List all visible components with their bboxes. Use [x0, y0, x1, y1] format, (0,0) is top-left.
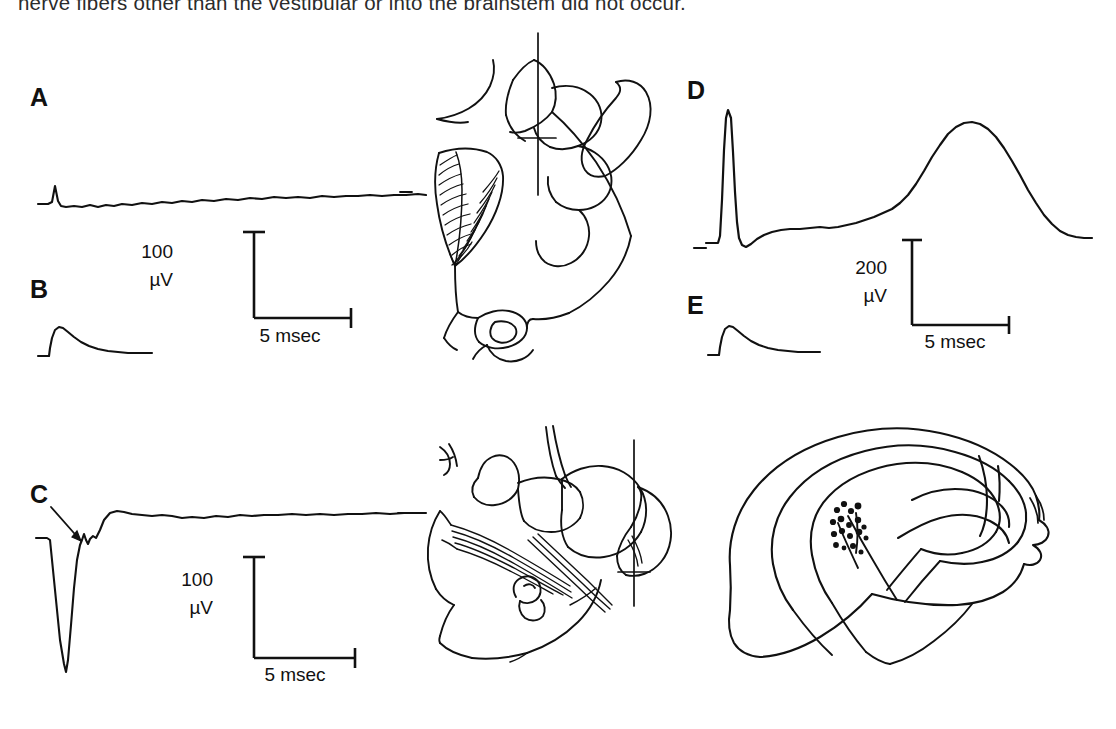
scale-bar-a — [243, 232, 352, 328]
scale-a-time-value: 5 msec — [230, 326, 350, 346]
brainstem-section-upper-diagram — [400, 33, 651, 361]
scale-d-amplitude-value: 200 — [832, 258, 887, 278]
panel-e-trace — [708, 326, 820, 355]
scale-bar-c — [243, 557, 356, 668]
panel-letter-d: D — [687, 78, 705, 103]
scale-a-amplitude-value: 100 — [123, 242, 173, 262]
panel-letter-c: C — [30, 482, 48, 507]
scale-c-amplitude-unit: µV — [163, 598, 213, 618]
caption-text-fragment: nerve fibers other than the vestibular o… — [18, 0, 1098, 15]
scale-c-amplitude-value: 100 — [163, 570, 213, 590]
panel-letter-e: E — [687, 293, 704, 318]
panel-c-trace — [36, 507, 426, 672]
scale-bar-d — [902, 240, 1010, 334]
scale-d-time-value: 5 msec — [895, 332, 1015, 352]
scale-d-amplitude-unit: µV — [832, 286, 887, 306]
cerebellar-surface-map-diagram — [729, 428, 1048, 664]
scale-c-time-value: 5 msec — [235, 665, 355, 685]
panel-letter-b: B — [30, 277, 48, 302]
panel-letter-a: A — [30, 85, 48, 110]
brainstem-section-lower-diagram — [398, 426, 671, 662]
scale-a-amplitude-unit: µV — [123, 270, 173, 290]
arrow-head-icon — [72, 531, 81, 541]
figure-root: nerve fibers other than the vestibular o… — [0, 0, 1116, 729]
panel-a-trace — [38, 186, 426, 207]
panel-d-trace — [694, 110, 1092, 248]
recording-site-dots — [830, 501, 869, 555]
panel-b-trace — [38, 327, 152, 356]
